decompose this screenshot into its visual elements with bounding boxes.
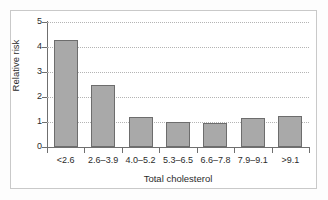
y-tick-label: 5 <box>20 17 42 26</box>
y-tick-label: 4 <box>20 42 42 51</box>
y-axis-title: Relative risk <box>10 31 21 101</box>
bar-slot <box>197 22 234 147</box>
bar <box>278 116 302 147</box>
y-tick-label: 0 <box>20 142 42 151</box>
bar <box>91 85 115 147</box>
x-tick-mark <box>47 147 48 153</box>
bar <box>241 118 265 147</box>
bar-slot <box>272 22 309 147</box>
x-tick-mark <box>159 147 160 153</box>
x-axis-title: Total cholesterol <box>47 173 309 184</box>
bar-slot <box>159 22 196 147</box>
x-tick-mark <box>84 147 85 153</box>
bar-slot <box>47 22 84 147</box>
x-tick-mark <box>122 147 123 153</box>
bar-slot <box>234 22 271 147</box>
x-tick-label: 2.6–3.9 <box>84 155 121 165</box>
x-tick-mark <box>309 147 310 153</box>
gridline <box>47 147 309 148</box>
chart-figure: 012345 <2.62.6–3.94.0–5.25.3–6.56.6–7.87… <box>0 0 328 200</box>
x-tick-mark <box>197 147 198 153</box>
bar-series <box>47 22 309 147</box>
bar-slot <box>84 22 121 147</box>
x-tick-label: 6.6–7.8 <box>197 155 234 165</box>
x-tick-label: >9.1 <box>272 155 309 165</box>
bar <box>54 40 78 148</box>
bar <box>203 123 227 147</box>
x-tick-label: 4.0–5.2 <box>122 155 159 165</box>
y-tick-label: 3 <box>20 67 42 76</box>
bar <box>166 122 190 147</box>
bar <box>129 117 153 147</box>
x-tick-label: 5.3–6.5 <box>159 155 196 165</box>
x-tick-label: 7.9–9.1 <box>234 155 271 165</box>
x-tick-mark <box>272 147 273 153</box>
x-tick-label: <2.6 <box>47 155 84 165</box>
y-tick-label: 2 <box>20 92 42 101</box>
x-tick-mark <box>234 147 235 153</box>
bar-slot <box>122 22 159 147</box>
y-tick-label: 1 <box>20 117 42 126</box>
